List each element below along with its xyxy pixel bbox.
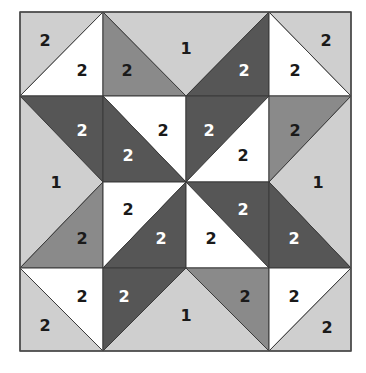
piece-label: 2	[288, 287, 299, 306]
piece-label: 2	[239, 287, 250, 306]
piece-label: 2	[122, 200, 133, 219]
piece-label: 2	[321, 318, 332, 337]
piece-label: 2	[122, 146, 133, 165]
piece-label: 2	[288, 229, 299, 248]
quilt-pieces	[20, 12, 351, 351]
piece-label: 2	[39, 316, 50, 335]
piece-label: 2	[203, 121, 214, 140]
piece-label: 2	[237, 146, 248, 165]
piece-label: 2	[238, 61, 249, 80]
piece-label: 1	[50, 173, 61, 192]
quilt-diagram: 2221222212222222222122221222	[0, 0, 366, 373]
piece-label: 2	[289, 121, 300, 140]
piece-label: 2	[237, 200, 248, 219]
piece-label: 2	[118, 287, 129, 306]
piece-label: 2	[121, 61, 132, 80]
piece-label: 2	[157, 121, 168, 140]
piece-label: 2	[289, 61, 300, 80]
piece-label: 1	[180, 39, 191, 58]
piece-label: 2	[76, 121, 87, 140]
piece-label: 1	[312, 173, 323, 192]
piece-label: 1	[180, 306, 191, 325]
piece-label: 2	[76, 61, 87, 80]
piece-label: 2	[76, 229, 87, 248]
piece-label: 2	[39, 31, 50, 50]
piece-label: 2	[155, 229, 166, 248]
piece-label: 2	[205, 229, 216, 248]
piece-label: 2	[76, 287, 87, 306]
piece-label: 2	[320, 31, 331, 50]
